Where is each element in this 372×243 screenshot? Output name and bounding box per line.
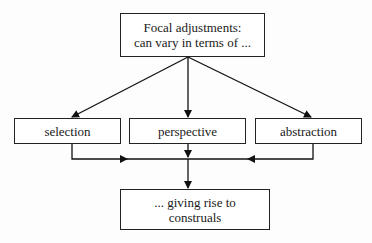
perspective-label: perspective: [158, 124, 217, 139]
selection-box: selection: [14, 118, 121, 144]
focal-adjustments-line1: Focal adjustments:: [144, 20, 242, 35]
construals-line1: ... giving rise to: [154, 195, 236, 210]
focal-adjustments-line2: can vary in terms of ...: [134, 35, 251, 50]
focal-adjustments-box: Focal adjustments: can vary in terms of …: [120, 13, 265, 57]
construals-box: ... giving rise to construals: [120, 189, 270, 230]
diagram-canvas: Focal adjustments: can vary in terms of …: [0, 0, 372, 243]
abstraction-box: abstraction: [255, 118, 362, 144]
selection-label: selection: [44, 124, 90, 139]
construals-line2: construals: [169, 210, 222, 225]
perspective-box: perspective: [129, 118, 246, 144]
abstraction-label: abstraction: [280, 124, 337, 139]
